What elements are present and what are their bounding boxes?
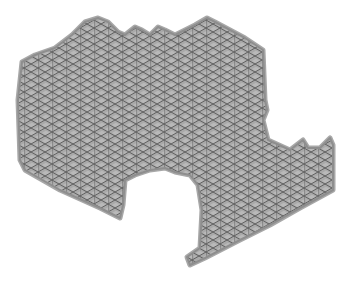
lattice-image — [0, 0, 353, 283]
lattice-shape — [0, 0, 353, 283]
